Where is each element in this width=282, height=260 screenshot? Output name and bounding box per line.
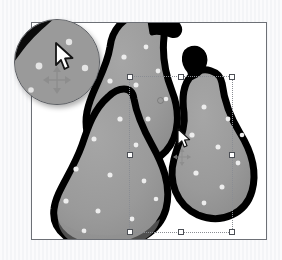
move-crosshair-icon xyxy=(172,147,192,167)
right-pear-body xyxy=(172,70,254,219)
app-background xyxy=(0,0,282,260)
right-pear[interactable] xyxy=(172,49,254,219)
top-pear-stem xyxy=(150,23,180,35)
right-pear-stem xyxy=(185,49,204,77)
magnifier-loupe[interactable] xyxy=(14,19,100,105)
arrow-cursor-icon xyxy=(54,41,76,71)
